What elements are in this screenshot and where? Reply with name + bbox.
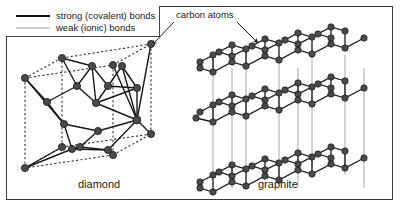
weak-bond-line-icon xyxy=(14,23,50,33)
legend-item-strong-bonds: strong (covalent) bonds xyxy=(14,10,155,22)
legend-item-weak-bonds: weak (ionic) bonds xyxy=(14,22,135,34)
carbon-atoms-annotation: carbon atoms xyxy=(176,9,234,20)
legend-label-strong-bonds: strong (covalent) bonds xyxy=(56,11,155,21)
legend-label-weak-bonds: weak (ionic) bonds xyxy=(56,23,135,33)
carbon-allotropes-figure: strong (covalent) bonds weak (ionic) bon… xyxy=(0,0,403,212)
strong-bond-line-icon xyxy=(14,11,50,21)
diamond-label: diamond xyxy=(78,178,120,190)
legend: strong (covalent) bonds weak (ionic) bon… xyxy=(6,6,160,37)
graphite-label: graphite xyxy=(258,178,298,190)
